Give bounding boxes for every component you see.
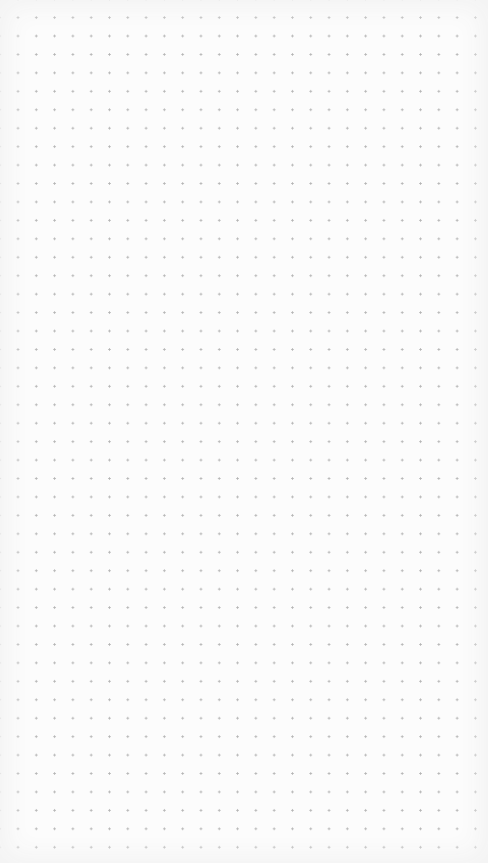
dot-grid-canvas[interactable]	[0, 0, 488, 863]
